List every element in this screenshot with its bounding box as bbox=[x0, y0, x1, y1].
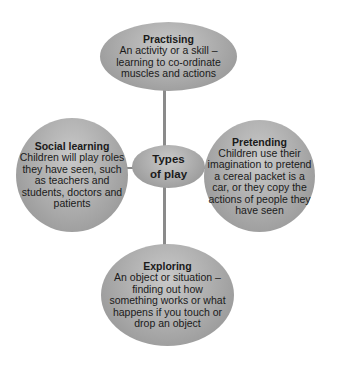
node-desc-line: have seen bbox=[235, 205, 283, 217]
node-social-learning: Social learning Children will play roles… bbox=[16, 118, 128, 232]
node-title: Pretending bbox=[232, 136, 287, 148]
center-title-line: of play bbox=[150, 167, 187, 182]
node-types-of-play: Types of play bbox=[132, 145, 205, 188]
node-desc-line: drop an object bbox=[134, 318, 201, 330]
center-title-line: Types bbox=[152, 152, 184, 167]
node-desc-line: car, or they copy the bbox=[212, 182, 307, 194]
node-exploring: Exploring An object or situation – findi… bbox=[101, 244, 234, 346]
node-desc-line: imagination to pretend bbox=[208, 159, 312, 171]
node-pretending: Pretending Children use their imaginatio… bbox=[204, 120, 315, 232]
node-practising: Practising An activity or a skill – lear… bbox=[100, 22, 237, 91]
node-desc-line: patients bbox=[54, 198, 91, 210]
node-desc-line: muscles and actions bbox=[121, 68, 216, 80]
